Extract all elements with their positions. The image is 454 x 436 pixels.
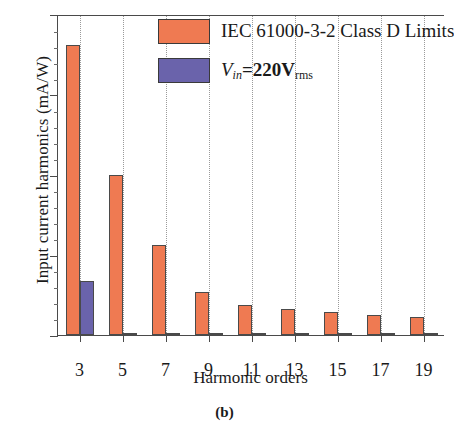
bar (338, 333, 352, 335)
bar (166, 333, 180, 335)
legend-subscript-rms: rms (295, 68, 313, 82)
y-axis-minor-tick (54, 272, 58, 273)
y-axis-minor-tick (54, 80, 58, 81)
bar (324, 312, 338, 335)
y-axis-minor-tick (54, 240, 58, 241)
y-axis-minor-tick (54, 224, 58, 225)
y-axis-minor-tick (54, 112, 58, 113)
y-axis-minor-tick (54, 128, 58, 129)
y-axis-minor-tick (54, 208, 58, 209)
legend: IEC 61000-3-2 Class D Limits Vin=220Vrms (158, 18, 443, 96)
legend-symbol-v: V (221, 59, 233, 80)
bar (281, 309, 295, 335)
x-axis-title: Harmonic orders (57, 368, 444, 388)
legend-item-limits: IEC 61000-3-2 Class D Limits (158, 18, 443, 51)
bar (66, 45, 80, 336)
legend-swatch-measured (158, 58, 210, 83)
legend-label-limits: IEC 61000-3-2 Class D Limits (221, 18, 454, 44)
bar (410, 317, 424, 335)
y-axis-tick (50, 95, 58, 96)
figure-caption: (b) (0, 404, 449, 421)
bar (367, 315, 381, 335)
y-axis-minor-tick (54, 160, 58, 161)
x-axis-tick (80, 335, 81, 342)
y-axis-tick (50, 336, 58, 337)
legend-label-measured: Vin=220Vrms (221, 57, 313, 85)
y-axis-minor-tick (54, 64, 58, 65)
y-axis-tick (50, 15, 58, 16)
y-axis-minor-tick (54, 304, 58, 305)
bar (80, 281, 94, 335)
y-axis-title: Input current harmonics (mA/W) (33, 10, 53, 330)
x-axis-tick (381, 335, 382, 342)
y-axis-minor-tick (54, 320, 58, 321)
x-axis-tick (166, 335, 167, 342)
grid-line (123, 16, 124, 335)
bar (238, 305, 252, 335)
bar (252, 333, 266, 335)
x-axis-tick (338, 335, 339, 342)
bar (152, 245, 166, 335)
y-axis-minor-tick (54, 288, 58, 289)
bar (195, 292, 209, 335)
y-axis-minor-tick (54, 192, 58, 193)
y-axis-minor-tick (54, 144, 58, 145)
legend-swatch-limits (158, 19, 210, 44)
legend-subscript-in: in (233, 68, 242, 82)
x-axis-tick (209, 335, 210, 342)
y-axis-minor-tick (54, 48, 58, 49)
y-axis-tick (50, 176, 58, 177)
bar (109, 175, 123, 336)
x-axis-tick (424, 335, 425, 342)
bar (381, 333, 395, 335)
bar (295, 333, 309, 335)
x-axis-tick (295, 335, 296, 342)
y-axis-minor-tick (54, 32, 58, 33)
legend-item-measured: Vin=220Vrms (158, 57, 443, 90)
legend-value-220v: =220V (242, 59, 295, 80)
bar (123, 333, 137, 335)
bar (424, 333, 438, 335)
x-axis-tick (123, 335, 124, 342)
x-axis-tick (252, 335, 253, 342)
bar (209, 333, 223, 335)
y-axis-tick (50, 256, 58, 257)
